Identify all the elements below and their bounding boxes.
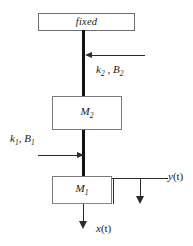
lower-spring-damper-leader-line — [38, 155, 77, 156]
mass-2-box: M2 — [52, 96, 122, 130]
mass-2-subscript: 2 — [90, 111, 94, 120]
output-argument: (t) — [173, 170, 183, 182]
mass-1-label: M1 — [76, 183, 89, 197]
upper-damper-symbol: B — [113, 63, 120, 75]
arrow-down-icon — [136, 196, 144, 204]
mass-1-box: M1 — [52, 176, 112, 204]
output-datum-tick — [113, 178, 114, 204]
arrow-left-icon — [85, 52, 92, 58]
output-displacement-label: y(t) — [168, 171, 183, 182]
upper-spring-damper-leader-line — [92, 55, 145, 56]
output-arrow-stem — [140, 179, 141, 197]
upper-label-separator: , — [105, 63, 113, 75]
mass-1-symbol: M — [76, 182, 85, 194]
upper-spring-damper-label: k2 , B2 — [96, 64, 123, 78]
lower-spring-damper-label: k1, B1 — [10, 133, 35, 147]
mass-1-subscript: 1 — [85, 188, 89, 197]
mass-2-symbol: M — [81, 105, 90, 117]
mechanical-system-diagram: fixed k2 , B2 M2 k1, B1 M1 y(t) x(t) — [0, 0, 193, 246]
input-arrow-stem — [83, 204, 84, 222]
mass-2-label: M2 — [81, 106, 94, 120]
lower-damper-subscript: 1 — [31, 138, 35, 147]
rod-segment-upper — [82, 30, 85, 97]
input-displacement-label: x(t) — [96, 223, 111, 234]
input-argument: (t) — [101, 222, 111, 234]
arrow-right-icon — [77, 152, 84, 158]
arrow-down-icon — [79, 221, 87, 229]
fixed-support-label: fixed — [76, 17, 97, 28]
upper-damper-subscript: 2 — [120, 69, 124, 78]
lower-damper-symbol: B — [24, 132, 31, 144]
fixed-support-box: fixed — [38, 13, 135, 31]
